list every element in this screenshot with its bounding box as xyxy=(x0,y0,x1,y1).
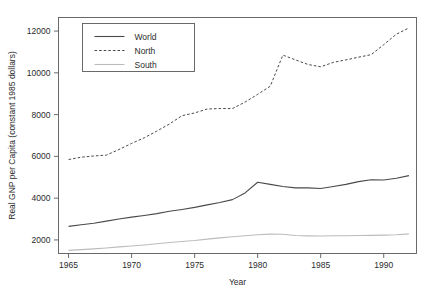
legend-label-north: North xyxy=(135,46,156,56)
y-axis: 20004000600080001000012000 xyxy=(27,26,59,245)
x-tick-label: 1965 xyxy=(59,260,78,270)
y-tick-label: 2000 xyxy=(32,235,51,245)
y-tick-label: 6000 xyxy=(32,151,51,161)
legend-label-world: World xyxy=(135,32,157,42)
x-axis: 196519701975198019851990 xyxy=(59,254,393,271)
chart-container: 196519701975198019851990 200040006000800… xyxy=(0,0,430,301)
y-tick-label: 10000 xyxy=(27,68,51,78)
x-tick-label: 1970 xyxy=(122,260,141,270)
x-tick-label: 1990 xyxy=(374,260,393,270)
y-tick-label: 12000 xyxy=(27,26,51,36)
legend-label-south: South xyxy=(135,60,157,70)
x-tick-label: 1980 xyxy=(248,260,267,270)
gnp-per-capita-line-chart: 196519701975198019851990 200040006000800… xyxy=(0,0,430,301)
y-tick-label: 4000 xyxy=(32,193,51,203)
x-tick-label: 1985 xyxy=(311,260,330,270)
x-axis-title: Year xyxy=(229,277,246,287)
series-line-world xyxy=(69,176,409,227)
series-line-south xyxy=(69,234,409,251)
axis-titles: YearReal GNP per Capita (constant 1985 d… xyxy=(7,51,246,287)
y-tick-label: 8000 xyxy=(32,110,51,120)
chart-legend: WorldNorthSouth xyxy=(83,24,195,72)
y-axis-title: Real GNP per Capita (constant 1985 dolla… xyxy=(7,51,17,220)
x-tick-label: 1975 xyxy=(185,260,204,270)
